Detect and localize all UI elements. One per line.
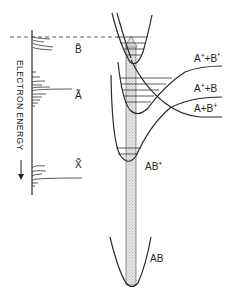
label-a-plus-b: A++B: [194, 82, 218, 94]
band-label-a: Ã: [75, 89, 82, 101]
label-ab: AB: [150, 253, 164, 264]
electron-energy-axis-label: ELECTRON ENERGY: [15, 60, 25, 151]
spectrum-peak-b: [32, 37, 53, 50]
label-ab-plus: AB+: [145, 160, 162, 172]
potential-energy-curves: A++B* A++B A+B+ AB+ AB: [110, 13, 222, 287]
spectrum: B̃ Ã X̃ ELECTRON ENERGY: [10, 30, 118, 195]
band-label-b: B̃: [75, 43, 82, 55]
spectrum-peak-a: [32, 72, 72, 106]
photoelectron-diagram: B̃ Ã X̃ ELECTRON ENERGY: [0, 0, 235, 301]
franck-condon-region: [126, 45, 136, 285]
down-arrow-icon: [18, 160, 24, 180]
label-a-b-plus: A+B+: [194, 102, 217, 114]
label-a-plus-b-star: A++B*: [194, 52, 220, 64]
band-label-x: X̃: [75, 158, 82, 170]
